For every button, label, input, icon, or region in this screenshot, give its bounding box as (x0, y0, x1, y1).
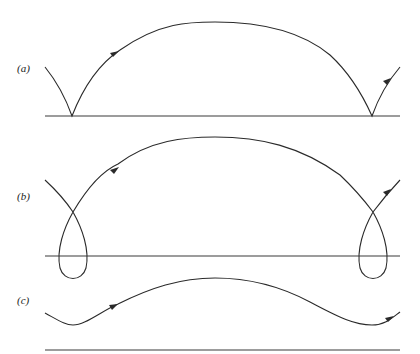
trajectory-a (45, 22, 400, 116)
trajectory-c (45, 278, 400, 325)
diagram-canvas (0, 0, 420, 354)
panel-c (45, 278, 400, 350)
arrow-icon (383, 189, 391, 196)
trajectory-figure: (a) (b) (c) (0, 0, 420, 354)
arrow-icon (383, 78, 391, 85)
trajectory-b (45, 137, 400, 279)
panel-a (45, 22, 400, 116)
panel-b (45, 137, 400, 279)
arrow-icon (109, 304, 118, 310)
